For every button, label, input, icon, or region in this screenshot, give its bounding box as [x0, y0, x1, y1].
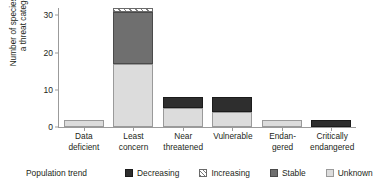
stacked-bar[interactable]	[64, 120, 104, 127]
legend-label: Decreasing	[137, 168, 179, 178]
bar-segment-decreasing[interactable]	[163, 97, 203, 108]
bar-segment-unknown[interactable]	[212, 112, 252, 127]
y-tick-label: 0	[23, 122, 58, 132]
x-tick-label-line: Least	[109, 131, 159, 142]
x-tick-label-line: gered	[258, 142, 308, 153]
bar-slot	[257, 8, 307, 127]
legend-label: Unknown	[338, 168, 373, 178]
x-tick-label: Vulnerable	[208, 131, 258, 152]
y-axis-title-line-1: Number of species within	[8, 0, 19, 66]
x-tick-label-line: Critically	[307, 131, 357, 142]
stacked-bar[interactable]	[262, 120, 302, 127]
y-tick-label: 20	[23, 48, 58, 58]
bar-slot	[59, 8, 109, 127]
x-tick-label-line: Vulnerable	[208, 131, 258, 142]
y-tick-label: 30	[23, 10, 58, 20]
x-tick-label-line: concern	[109, 142, 159, 153]
y-tick-mark	[55, 52, 58, 53]
x-tick-label: Leastconcern	[109, 131, 159, 152]
legend-swatch-unknown-icon	[326, 169, 334, 177]
x-tick-label-line: threatened	[158, 142, 208, 153]
x-axis-labels: DatadeficientLeastconcernNearthreatenedV…	[59, 131, 357, 152]
bar-slot	[109, 8, 159, 127]
legend-label: Increasing	[211, 168, 250, 178]
bar-segment-unknown[interactable]	[163, 108, 203, 127]
bar-group	[59, 8, 356, 127]
x-tick-label: Criticallyendangered	[307, 131, 357, 152]
legend-swatch-stable-icon	[270, 169, 278, 177]
x-tick-label-line: Data	[59, 131, 109, 142]
bar-slot	[158, 8, 208, 127]
bar-segment-unknown[interactable]	[262, 120, 302, 127]
legend-item-unknown[interactable]: Unknown	[326, 168, 373, 178]
legend-items: DecreasingIncreasingStableUnknown	[125, 168, 373, 178]
legend-item-stable[interactable]: Stable	[270, 168, 306, 178]
y-tick-label: 10	[23, 85, 58, 95]
bar-slot	[307, 8, 357, 127]
bar-slot	[208, 8, 258, 127]
legend-item-decreasing[interactable]: Decreasing	[125, 168, 179, 178]
x-tick-label-line: Near	[158, 131, 208, 142]
legend-swatch-decreasing-icon	[125, 169, 133, 177]
y-tick-mark	[55, 89, 58, 90]
x-tick-label-line: Endan-	[258, 131, 308, 142]
bar-segment-decreasing[interactable]	[311, 120, 351, 127]
legend: Population trend DecreasingIncreasingSta…	[26, 168, 356, 178]
bar-segment-stable[interactable]	[113, 12, 153, 64]
y-axis-title-line-2: a threat category	[19, 0, 30, 51]
plot-area: 0102030	[58, 8, 356, 127]
stacked-bar[interactable]	[113, 8, 153, 127]
x-tick-label-line: deficient	[59, 142, 109, 153]
legend-title: Population trend	[26, 168, 87, 178]
stacked-bar[interactable]	[311, 120, 351, 127]
stacked-bar[interactable]	[212, 97, 252, 127]
stacked-bar[interactable]	[163, 97, 203, 127]
x-tick-label: Endan-gered	[258, 131, 308, 152]
legend-label: Stable	[282, 168, 306, 178]
bar-segment-unknown[interactable]	[64, 120, 104, 127]
legend-swatch-increasing-icon	[199, 169, 207, 177]
legend-item-increasing[interactable]: Increasing	[199, 168, 250, 178]
bar-segment-decreasing[interactable]	[212, 97, 252, 112]
y-tick-mark	[55, 15, 58, 16]
x-axis-line	[58, 127, 356, 128]
bar-segment-unknown[interactable]	[113, 64, 153, 127]
x-tick-label: Datadeficient	[59, 131, 109, 152]
x-tick-label: Nearthreatened	[158, 131, 208, 152]
x-tick-label-line: endangered	[307, 142, 357, 153]
stacked-bar-chart-figure: Number of species within a threat catego…	[0, 0, 376, 191]
y-tick-mark	[55, 127, 58, 128]
